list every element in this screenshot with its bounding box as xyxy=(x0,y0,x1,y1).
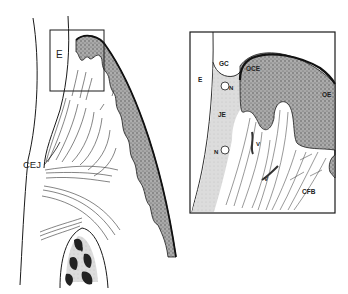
label-nucleus-2: N xyxy=(214,149,218,155)
label-cfb: CFB xyxy=(302,188,316,195)
label-cej: CEJ xyxy=(23,159,41,170)
label-vessel-1: V xyxy=(256,141,260,147)
overview-panel: E CEJ xyxy=(20,16,176,288)
nucleus-2 xyxy=(221,146,229,154)
nucleus-1 xyxy=(221,82,229,90)
tooth-inner-line xyxy=(44,16,69,168)
label-je: JE xyxy=(218,111,227,118)
tooth-surface-line xyxy=(20,18,37,285)
label-gc: GC xyxy=(219,60,229,67)
gingiva-diagram: E CEJ xyxy=(0,0,348,294)
label-enamel-overview: E xyxy=(56,49,63,60)
label-oe: OE xyxy=(322,91,332,98)
label-enamel: E xyxy=(198,76,203,83)
label-oce: OCE xyxy=(246,65,261,72)
label-vessel-2: V xyxy=(264,176,268,182)
oral-epithelium-band xyxy=(76,36,176,257)
inset-panel: E GC OCE OE JE N N V V CFB xyxy=(190,32,335,213)
label-nucleus-1: N xyxy=(229,85,233,91)
vessel-1 xyxy=(252,132,253,154)
